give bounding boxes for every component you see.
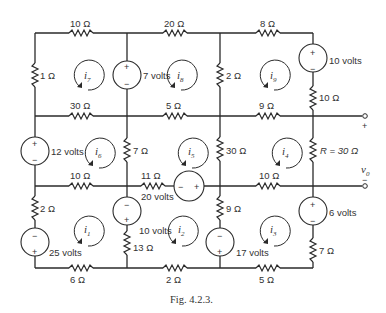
- label-load: R = 30 Ω: [320, 145, 358, 156]
- resistor-row2-right: [256, 113, 280, 119]
- label-left-lower: 2 Ω: [40, 203, 55, 214]
- source-10v-mid: − +: [113, 197, 141, 225]
- svg-text:+: +: [194, 182, 199, 192]
- current-i6: i6: [95, 145, 102, 160]
- label-top-mid: 20 Ω: [164, 18, 184, 29]
- resistor-top-left: [69, 30, 93, 36]
- label-row3-left: 10 Ω: [70, 170, 90, 181]
- label-source-6v: 6 volts: [329, 207, 357, 218]
- current-i1: i1: [84, 223, 91, 238]
- label-bottom-mid: 2 Ω: [166, 274, 181, 285]
- source-25v: − +: [21, 228, 49, 257]
- label-source-25v: 25 volts: [49, 247, 82, 258]
- svg-text:−: −: [124, 200, 129, 210]
- source-10v-top: + −: [299, 44, 327, 74]
- source-17v: − +: [206, 228, 234, 257]
- resistor-bottom-left: [69, 265, 93, 271]
- resistor-top-mid: [163, 30, 187, 36]
- resistor-col2-lower: [124, 231, 130, 255]
- resistor-right-lower: [310, 238, 316, 262]
- resistor-right-upper: [310, 86, 316, 110]
- svg-text:+: +: [310, 200, 315, 210]
- resistor-col3-mid: [217, 137, 223, 161]
- source-6v: + −: [299, 197, 327, 226]
- label-top-right: 8 Ω: [260, 18, 275, 29]
- svg-text:+: +: [32, 247, 37, 257]
- current-i2: i2: [178, 223, 185, 238]
- resistor-col3-lower: [217, 196, 223, 220]
- svg-text:+: +: [124, 215, 129, 225]
- label-source-20v: 20 volts: [141, 191, 174, 202]
- label-row2-left: 30 Ω: [70, 100, 90, 111]
- label-col2-mid: 7 Ω: [133, 145, 148, 156]
- resistor-load: [310, 138, 316, 162]
- resistor-bottom-right: [256, 265, 280, 271]
- label-right-upper: 10 Ω: [319, 92, 339, 103]
- resistor-left-lower: [32, 196, 38, 220]
- label-source-17v: 17 volts: [236, 247, 269, 258]
- resistor-row3-left: [69, 183, 93, 189]
- current-i5: i5: [188, 145, 195, 160]
- svg-text:−: −: [310, 216, 315, 226]
- svg-text:+: +: [362, 121, 367, 131]
- current-i7: i7: [84, 69, 91, 84]
- resistor-row2-mid: [163, 113, 187, 119]
- svg-text:−: −: [32, 231, 37, 241]
- current-i8: i8: [177, 69, 184, 84]
- label-right-lower: 7 Ω: [319, 245, 334, 256]
- source-12v: + −: [21, 137, 49, 165]
- current-i4: i4: [282, 145, 289, 160]
- output-terminal-plus: +: [362, 114, 367, 131]
- svg-text:−: −: [124, 79, 129, 89]
- label-source-10v-top: 10 volts: [329, 55, 362, 66]
- label-top-left: 10 Ω: [70, 18, 90, 29]
- label-col3-mid: 30 Ω: [226, 145, 246, 156]
- label-col2-lower: 13 Ω: [133, 242, 153, 253]
- label-bottom-left: 6 Ω: [70, 274, 85, 285]
- svg-text:−: −: [178, 182, 183, 192]
- label-row2-right: 9 Ω: [259, 100, 274, 111]
- source-7v: + −: [113, 61, 141, 89]
- svg-text:+: +: [310, 48, 315, 58]
- resistor-left-upper: [32, 63, 38, 87]
- current-i3: i3: [270, 223, 277, 238]
- svg-text:+: +: [124, 62, 129, 72]
- resistor-row3-mid: [141, 183, 165, 189]
- label-col3-upper: 2 Ω: [226, 70, 241, 81]
- source-20v: − +: [174, 171, 204, 201]
- resistor-top-right: [256, 30, 280, 36]
- resistor-bottom-mid: [163, 265, 187, 271]
- label-row3-mid: 11 Ω: [141, 170, 161, 181]
- svg-text:−: −: [217, 231, 222, 241]
- svg-text:−: −: [32, 155, 37, 165]
- label-bottom-right: 5 Ω: [259, 274, 274, 285]
- label-source-7v: 7 volts: [143, 70, 171, 81]
- label-col3-lower: 9 Ω: [226, 203, 241, 214]
- svg-text:−: −: [310, 64, 315, 74]
- resistor-row3-right: [256, 183, 280, 189]
- label-source-12v: 12 volts: [51, 146, 84, 157]
- resistor-col2-mid: [124, 138, 130, 162]
- label-source-10v-mid: 10 volts: [139, 225, 172, 236]
- label-row3-right: 10 Ω: [259, 170, 279, 181]
- resistor-row2-left: [69, 113, 93, 119]
- svg-text:+: +: [32, 139, 37, 149]
- current-i9: i9: [270, 69, 277, 84]
- resistor-col3-upper: [217, 63, 223, 87]
- circuit-diagram: 10 Ω 20 Ω 8 Ω 1 Ω 30 Ω 5 Ω 9 Ω 2 Ω 10 Ω …: [0, 0, 386, 313]
- label-left-upper: 1 Ω: [40, 70, 55, 81]
- figure-caption: Fig. 4.2.3.: [170, 294, 213, 305]
- svg-text:+: +: [217, 247, 222, 257]
- label-row2-mid: 5 Ω: [166, 100, 181, 111]
